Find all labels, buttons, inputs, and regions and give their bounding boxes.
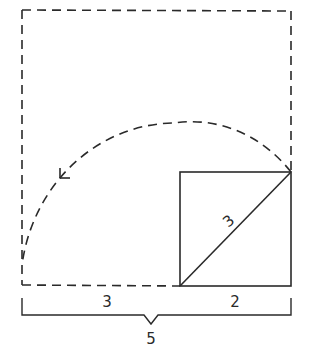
diagonal-line (180, 172, 291, 286)
total-width-label: 5 (146, 330, 156, 348)
bottom-right-label: 2 (230, 293, 240, 311)
width-bracket (22, 298, 291, 324)
diagram-canvas: 3 3 2 5 (0, 0, 310, 361)
rotation-arc (22, 122, 291, 265)
outer-dashed-square (22, 10, 291, 286)
bottom-left-label: 3 (102, 293, 112, 311)
